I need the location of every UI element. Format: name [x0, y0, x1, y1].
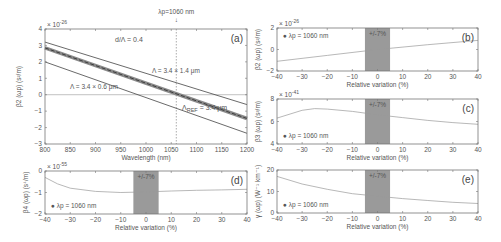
y-tick-label: 1	[38, 75, 42, 82]
x-tick-label: −10	[347, 73, 358, 80]
y-tick-label: −1	[35, 189, 43, 196]
tolerance-label: +/-7%	[369, 101, 386, 108]
data-curve	[45, 62, 247, 133]
panel-b: +/-7%−40−30−20−10010203040−202× 10-26Rel…	[254, 18, 482, 89]
panel-a: λp=1060 nm↓d/Λ = 0.4Λ = 3.4 × 1.4 μmΛ = …	[15, 8, 255, 162]
x-tick-label: 20	[424, 215, 432, 222]
x-axis-label: Relative variation (%)	[347, 154, 409, 162]
x-tick-label: 10	[399, 215, 407, 222]
y-axis-label: β2 (ωp) (s²/m)	[15, 66, 23, 107]
data-curve	[45, 42, 247, 105]
y-tick-label: 4	[38, 25, 42, 32]
panel-e: +/-7%−40−30−20−1001020304001020Relative …	[254, 165, 482, 231]
x-tick-label: 1150	[215, 146, 229, 153]
x-tick-label: 20	[424, 146, 432, 153]
x-axis-label: Relative variation (%)	[347, 223, 409, 231]
y-axis-label: β4 (ωp) (s⁴/m)	[22, 172, 30, 214]
x-tick-label: −20	[322, 73, 333, 80]
x-tick-label: 1200	[240, 146, 255, 153]
x-tick-label: 950	[115, 146, 126, 153]
y-axis-label: β3 (ωp) (s³/m)	[254, 101, 262, 142]
x-tick-label: 10	[399, 146, 407, 153]
x-tick-label: −10	[347, 215, 358, 222]
axis-exponent: × 10-26	[47, 19, 67, 28]
x-axis-label: Relative variation (%)	[115, 224, 177, 232]
series-label-1p4: Λ = 3.4 × 1.4 μm	[152, 67, 200, 75]
y-tick-label: 20	[267, 166, 275, 173]
x-tick-label: 900	[90, 146, 101, 153]
x-tick-label: 40	[243, 216, 251, 223]
x-tick-label: −10	[115, 216, 126, 223]
panel-label: (d)	[231, 175, 243, 186]
x-tick-label: 1000	[139, 146, 154, 153]
x-tick-label: 40	[474, 215, 482, 222]
y-tick-label: 3	[38, 42, 42, 49]
y-tick-label: 2	[38, 58, 42, 65]
tolerance-label: +/-7%	[369, 172, 386, 179]
pump-label: λp=1060 nm	[158, 8, 194, 16]
tolerance-label: +/-7%	[369, 30, 386, 37]
x-tick-label: 30	[449, 215, 457, 222]
y-tick-label: −1	[35, 107, 43, 114]
pump-annotation: ● λp = 1060 nm	[51, 202, 96, 210]
y-tick-label: 10	[267, 188, 275, 195]
x-tick-label: −20	[322, 146, 333, 153]
panel-label: (c)	[462, 103, 474, 114]
y-tick-label: 2	[270, 24, 274, 31]
panel-label: (e)	[462, 174, 474, 185]
x-tick-label: 30	[449, 146, 457, 153]
x-tick-label: 0	[376, 73, 380, 80]
panel-label: (a)	[231, 33, 243, 44]
x-tick-label: 850	[65, 146, 76, 153]
x-tick-label: 0	[376, 215, 380, 222]
y-tick-label: −2	[35, 210, 43, 217]
panel-label: (b)	[462, 32, 474, 43]
axis-exponent: × 10-41	[279, 89, 299, 98]
x-tick-label: 1050	[164, 146, 179, 153]
y-tick-label: −2	[267, 67, 275, 74]
axis-exponent: × 10-26	[279, 18, 299, 27]
x-axis-label: Wavelength (nm)	[121, 154, 170, 162]
x-tick-label: −30	[297, 146, 308, 153]
x-tick-label: −30	[297, 73, 308, 80]
figure-canvas: λp=1060 nm↓d/Λ = 0.4Λ = 3.4 × 1.4 μmΛ = …	[0, 0, 501, 242]
x-tick-label: 40	[474, 73, 482, 80]
y-axis-label: γ (ωp) (W⁻¹ km⁻¹)	[254, 165, 262, 218]
arrow-down-icon: ↓	[175, 16, 178, 23]
x-tick-label: −30	[297, 215, 308, 222]
pump-annotation: ● λp = 1060 nm	[283, 132, 328, 140]
x-tick-label: −20	[90, 216, 101, 223]
y-tick-label: −3	[35, 140, 43, 147]
x-tick-label: −20	[322, 215, 333, 222]
pump-annotation: ● λp = 1060 nm	[283, 32, 328, 40]
x-tick-label: 0	[376, 146, 380, 153]
y-tick-label: 0	[270, 209, 274, 216]
x-tick-label: 40	[474, 146, 482, 153]
y-axis-label: β2 (ωp) (s²/m)	[254, 29, 262, 70]
panel-c: +/-7%−40−30−20−10010203040468× 10-41Rela…	[254, 89, 482, 162]
y-tick-label: 0	[38, 91, 42, 98]
x-tick-label: 1100	[190, 146, 204, 153]
x-tick-label: 30	[218, 216, 226, 223]
y-tick-label: 0	[270, 46, 274, 53]
y-tick-label: 8	[270, 95, 274, 102]
x-tick-label: 30	[449, 73, 457, 80]
y-tick-label: 4	[270, 140, 274, 147]
y-tick-label: −2	[35, 124, 43, 131]
x-tick-label: −30	[65, 216, 76, 223]
series-label-0p6: Λ = 3.4 × 0.6 μm	[70, 83, 118, 91]
x-tick-label: −10	[347, 146, 358, 153]
x-tick-label: 10	[399, 73, 407, 80]
tolerance-label: +/-7%	[137, 173, 154, 180]
x-tick-label: 0	[144, 216, 148, 223]
panel-d: +/-7%−40−30−20−10010203040−2−10× 10-55Re…	[22, 161, 251, 232]
x-tick-label: 20	[193, 216, 201, 223]
y-tick-label: 6	[270, 118, 274, 125]
x-tick-label: 20	[424, 73, 432, 80]
ratio-label: d/Λ = 0.4	[115, 36, 143, 43]
x-axis-label: Relative variation (%)	[347, 81, 409, 89]
axis-exponent: × 10-55	[47, 161, 67, 170]
series-label-ref: ΛREF = 3.4 μm	[182, 104, 227, 113]
y-tick-label: 0	[38, 167, 42, 174]
pump-annotation: ● λp = 1060 nm	[283, 201, 328, 209]
